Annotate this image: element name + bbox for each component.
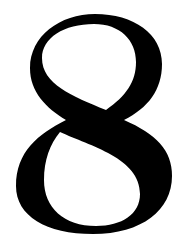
digit-eight-glyph: 8 bbox=[0, 0, 187, 244]
glyph-label: 8 bbox=[0, 0, 187, 244]
